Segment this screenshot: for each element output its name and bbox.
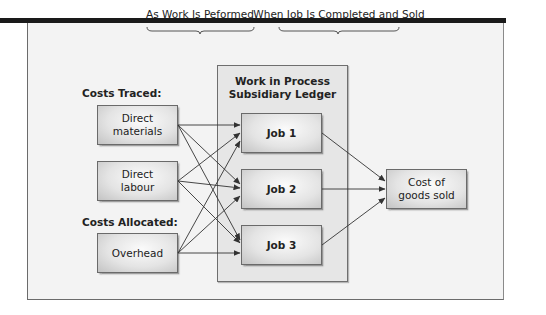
overhead-label: Overhead [112, 247, 163, 260]
wip-title-line1: Work in Process [218, 75, 347, 88]
wip-title: Work in Process Subsidiary Ledger [218, 75, 347, 101]
header-as-work-performed: As Work Is Peformed [146, 8, 254, 20]
overhead-box: Overhead [97, 233, 178, 273]
costs-allocated-label: Costs Allocated: [82, 216, 178, 228]
job-2-label: Job 2 [267, 183, 297, 196]
job-1-label: Job 1 [267, 127, 297, 140]
direct-labour-box: Direct labour [97, 161, 178, 201]
cogs-line2: goods sold [398, 189, 454, 202]
job-1-box: Job 1 [241, 113, 322, 153]
job-3-label: Job 3 [267, 239, 297, 252]
cost-of-goods-sold-box: Cost of goods sold [386, 169, 467, 209]
header-when-job-completed: When Job Is Completed and Sold [253, 8, 424, 20]
direct-materials-line2: materials [113, 125, 162, 138]
direct-labour-line2: labour [121, 181, 154, 194]
direct-materials-line1: Direct [113, 112, 162, 125]
job-3-box: Job 3 [241, 225, 322, 265]
job-2-box: Job 2 [241, 169, 322, 209]
direct-materials-box: Direct materials [97, 105, 178, 145]
costs-traced-label: Costs Traced: [82, 87, 161, 99]
cogs-line1: Cost of [398, 176, 454, 189]
direct-labour-line1: Direct [121, 168, 154, 181]
wip-title-line2: Subsidiary Ledger [218, 88, 347, 101]
